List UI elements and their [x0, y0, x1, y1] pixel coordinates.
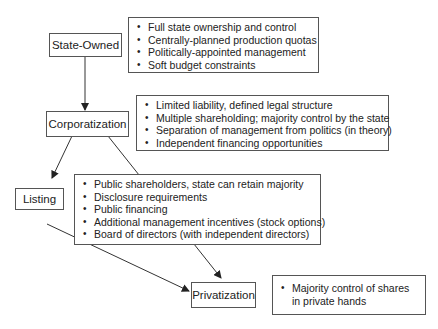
bullet-item: Full state ownership and control [137, 21, 310, 34]
bullet-item: Limited liability, defined legal structu… [145, 99, 380, 112]
privatization-characteristics: Majority control of shares in private ha… [272, 275, 426, 315]
bullet-item: Public shareholders, state can retain ma… [83, 178, 312, 191]
bullet-item: Majority control of shares in private ha… [281, 282, 417, 307]
stage-corporatization: Corporatization [46, 111, 129, 137]
stage-label: Listing [23, 193, 56, 205]
bullet-list: Limited liability, defined legal structu… [145, 99, 380, 149]
corporatization-characteristics: Limited liability, defined legal structu… [136, 95, 389, 151]
arrow-corporatization-to-listing [52, 136, 72, 178]
bullet-item: Multiple shareholding; majority control … [145, 112, 380, 125]
bullet-item: Soft budget constraints [137, 59, 310, 72]
stage-privatization: Privatization [191, 282, 256, 308]
stage-listing: Listing [15, 188, 64, 210]
bullet-list: Public shareholders, state can retain ma… [83, 178, 312, 241]
stage-state-owned: State-Owned [49, 33, 122, 57]
state-owned-characteristics: Full state ownership and control Central… [128, 17, 319, 73]
bullet-item: Independent financing opportunities [145, 137, 380, 150]
stage-label: Corporatization [49, 118, 127, 130]
bullet-item: Additional management incentives (stock … [83, 216, 312, 229]
bullet-list: Majority control of shares in private ha… [281, 282, 417, 307]
bullet-list: Full state ownership and control Central… [137, 21, 310, 71]
bullet-item: Public financing [83, 203, 312, 216]
bullet-item: Board of directors (with independent dir… [83, 228, 312, 241]
stage-label: State-Owned [52, 39, 119, 51]
bullet-item: Politically-appointed management [137, 46, 310, 59]
bullet-item: Disclosure requirements [83, 191, 312, 204]
bullet-item: Separation of management from politics (… [145, 124, 380, 137]
listing-characteristics: Public shareholders, state can retain ma… [74, 174, 321, 245]
stage-label: Privatization [192, 289, 255, 301]
bullet-item: Centrally-planned production quotas [137, 34, 310, 47]
